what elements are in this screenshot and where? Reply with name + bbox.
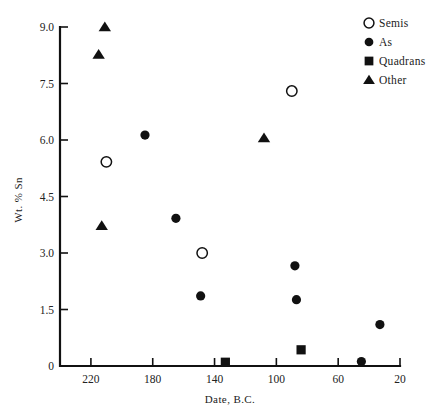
data-point bbox=[258, 133, 270, 143]
marker-filled-square bbox=[365, 57, 374, 66]
y-tick-label: 0 bbox=[48, 360, 54, 372]
y-tick-label: 3.0 bbox=[40, 247, 55, 259]
x-axis-label: Date, B.C. bbox=[205, 393, 255, 405]
y-axis-tick-labels: 01.53.04.56.07.59.0 bbox=[40, 21, 55, 372]
series-other bbox=[92, 21, 270, 230]
data-point bbox=[357, 357, 366, 366]
legend-item-label: As bbox=[379, 36, 393, 48]
y-tick-label: 9.0 bbox=[40, 21, 55, 33]
marker-filled-triangle bbox=[363, 75, 375, 84]
legend-item-quadrans[interactable]: Quadrans bbox=[365, 55, 426, 67]
data-point bbox=[287, 86, 297, 96]
y-axis-ticks bbox=[60, 27, 68, 366]
marker-open-circle bbox=[364, 18, 374, 28]
legend-item-other[interactable]: Other bbox=[363, 74, 407, 86]
data-point bbox=[290, 261, 299, 270]
data-point bbox=[375, 320, 384, 329]
y-tick-label: 1.5 bbox=[40, 304, 55, 316]
x-axis-ticks bbox=[91, 358, 400, 366]
x-axis-tick-labels: 2201801401006020 bbox=[82, 373, 406, 385]
x-tick-label: 60 bbox=[332, 373, 344, 385]
data-point bbox=[197, 248, 207, 258]
data-point bbox=[101, 157, 111, 167]
data-point bbox=[96, 220, 108, 230]
plot-canvas: 01.53.04.56.07.59.0 2201801401006020 Dat… bbox=[0, 0, 437, 419]
x-tick-label: 20 bbox=[394, 373, 406, 385]
legend-item-label: Other bbox=[379, 74, 407, 86]
series-as bbox=[140, 131, 384, 367]
data-point bbox=[171, 214, 180, 223]
scatter-plot-figure: 01.53.04.56.07.59.0 2201801401006020 Dat… bbox=[0, 0, 437, 419]
legend-item-semis[interactable]: Semis bbox=[364, 17, 409, 29]
series-semis bbox=[101, 86, 297, 258]
data-point bbox=[140, 131, 149, 140]
data-point bbox=[92, 49, 104, 59]
data-point bbox=[221, 358, 230, 367]
series-quadrans bbox=[221, 345, 306, 367]
data-point bbox=[296, 345, 305, 354]
legend-item-label: Semis bbox=[379, 17, 409, 29]
x-tick-label: 140 bbox=[206, 373, 224, 385]
x-tick-label: 220 bbox=[82, 373, 100, 385]
data-point bbox=[292, 295, 301, 304]
x-tick-label: 180 bbox=[144, 373, 162, 385]
legend-item-label: Quadrans bbox=[379, 55, 426, 67]
data-point-layer bbox=[92, 21, 384, 366]
marker-filled-circle bbox=[365, 38, 374, 47]
y-tick-label: 6.0 bbox=[40, 134, 55, 146]
axis-lines bbox=[60, 27, 400, 366]
y-tick-label: 4.5 bbox=[40, 191, 55, 203]
data-point bbox=[196, 291, 205, 300]
data-point bbox=[99, 21, 111, 31]
legend-item-as[interactable]: As bbox=[365, 36, 393, 48]
x-tick-label: 100 bbox=[268, 373, 286, 385]
y-axis-label: Wt. % Sn bbox=[12, 177, 24, 223]
legend: SemisAsQuadransOther bbox=[363, 17, 426, 86]
y-tick-label: 7.5 bbox=[40, 78, 55, 90]
